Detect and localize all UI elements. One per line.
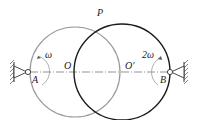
angular-velocity-arrow-a [37, 56, 50, 85]
label-b: B [160, 74, 166, 85]
label-o: O [64, 60, 71, 71]
pin-support-a [10, 60, 31, 84]
label-o-prime: O′ [125, 60, 135, 71]
mechanism-diagram: P O O′ A B ω 2ω [0, 0, 200, 120]
label-a: A [31, 74, 39, 85]
pin-support-b [167, 60, 188, 84]
label-omega: ω [45, 49, 52, 60]
label-p: P [96, 7, 103, 18]
label-2omega: 2ω [142, 49, 154, 60]
